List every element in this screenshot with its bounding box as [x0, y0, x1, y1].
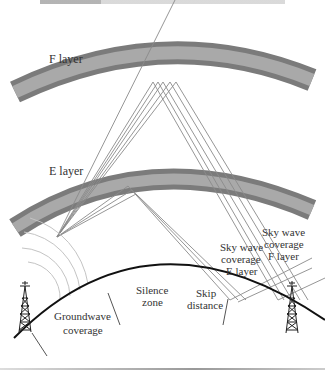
ionospheric-propagation-diagram: F layer E layer Groundwave coverage Sile…: [0, 0, 325, 371]
svg-text:distance: distance: [187, 299, 223, 311]
silence-zone-label: Silence zone: [136, 284, 168, 308]
svg-text:zone: zone: [142, 296, 163, 308]
svg-text:Groundwave: Groundwave: [54, 310, 111, 322]
svg-text:coverage: coverage: [264, 238, 304, 250]
svg-text:Skip: Skip: [196, 287, 217, 299]
escaping-ray: [57, 0, 175, 237]
svg-text:coverage: coverage: [63, 324, 103, 336]
e-layer-label: E layer: [49, 164, 83, 178]
svg-text:Sky wave: Sky wave: [220, 241, 263, 253]
svg-text:E layer: E layer: [226, 265, 258, 277]
sky-wave-coverage-f-layer-label: Sky wave coverage F layer: [262, 226, 305, 262]
sky-wave-coverage-e-layer-label: Sky wave coverage E layer: [220, 241, 263, 277]
groundwave-coverage-label: Groundwave coverage: [54, 310, 111, 336]
svg-text:Sky wave: Sky wave: [262, 226, 305, 238]
receiver-tower-icon: [286, 281, 298, 333]
svg-text:coverage: coverage: [221, 253, 261, 265]
skip-distance-label: Skip distance: [187, 287, 223, 311]
f-layer-label: F layer: [49, 52, 83, 66]
svg-text:Silence: Silence: [136, 284, 168, 296]
svg-text:F layer: F layer: [268, 250, 299, 262]
page-bottom-rule: [0, 368, 325, 370]
